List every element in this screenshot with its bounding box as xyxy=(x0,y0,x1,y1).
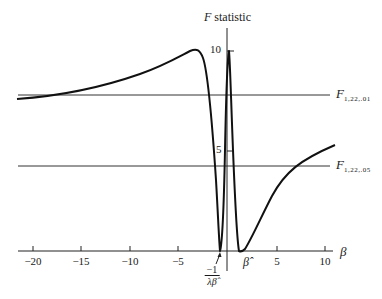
y-axis-title: F statistic xyxy=(204,10,251,25)
arrow-head-icon xyxy=(218,252,222,257)
x-tick-label: 5 xyxy=(274,255,280,267)
x-ticks xyxy=(33,246,325,251)
f01-sub: 1,22,.01 xyxy=(344,95,371,103)
frac-denominator: λβ̂ xyxy=(205,276,220,287)
x-tick-label: −15 xyxy=(72,255,89,267)
f-statistic-curve xyxy=(17,50,335,252)
neg-inverse-label: −1 λβ̂ xyxy=(205,264,220,287)
x-tick-label: 10 xyxy=(320,255,331,267)
x-tick-label: −20 xyxy=(24,255,41,267)
f05-main: F xyxy=(336,157,344,172)
f05-sub: 1,22,.05 xyxy=(344,166,371,174)
y-tick-label-5: 5 xyxy=(216,143,222,155)
frac-numerator: −1 xyxy=(205,264,220,276)
f01-main: F xyxy=(336,86,344,101)
y-tick-label-10: 10 xyxy=(210,43,221,55)
title-text: statistic xyxy=(211,10,251,24)
f05-label: F1,22,.05 xyxy=(336,157,371,174)
x-tick-label: −10 xyxy=(121,255,138,267)
beta-hat-label: β̂ xyxy=(243,255,249,270)
f01-label: F1,22,.01 xyxy=(336,86,371,103)
x-tick-label: −5 xyxy=(172,255,184,267)
x-axis-label: β xyxy=(340,244,346,260)
